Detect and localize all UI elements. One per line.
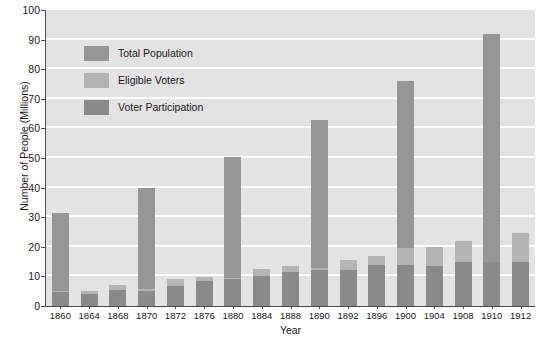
y-tick-label: 20 <box>0 242 40 252</box>
y-tick-mark <box>41 69 45 70</box>
legend-item[interactable]: Voter Participation <box>84 98 203 116</box>
voter-segment <box>455 262 472 306</box>
voter-segment <box>340 270 357 306</box>
y-tick-mark <box>41 99 45 100</box>
y-tick-mark <box>41 188 45 189</box>
legend-swatch-icon <box>84 46 109 61</box>
voter-segment <box>483 262 500 306</box>
x-tick-mark <box>89 306 90 309</box>
chart-legend: Total PopulationEligible VotersVoter Par… <box>84 44 203 125</box>
voter-segment <box>426 266 443 306</box>
bar-group[interactable] <box>455 10 472 306</box>
y-tick-label: 10 <box>0 271 40 281</box>
x-tick-mark <box>262 306 263 309</box>
bar-group[interactable] <box>224 10 241 306</box>
voter-segment <box>81 294 98 306</box>
y-tick-mark <box>41 158 45 159</box>
bar-group[interactable] <box>483 10 500 306</box>
voter-segment <box>52 292 69 306</box>
voter-segment <box>138 291 155 306</box>
legend-label: Total Population <box>118 47 193 59</box>
x-tick-mark <box>463 306 464 309</box>
legend-swatch-icon <box>84 73 109 88</box>
x-tick-mark <box>233 306 234 309</box>
bar-group[interactable] <box>340 10 357 306</box>
x-tick-mark <box>521 306 522 309</box>
y-tick-mark <box>41 128 45 129</box>
x-tick-mark <box>406 306 407 309</box>
bar-group[interactable] <box>311 10 328 306</box>
y-tick-mark <box>41 40 45 41</box>
voter-segment <box>109 290 126 306</box>
bar-group[interactable] <box>368 10 385 306</box>
x-tick-mark <box>434 306 435 309</box>
y-tick-label: 0 <box>0 301 40 311</box>
x-tick-mark <box>118 306 119 309</box>
x-tick-mark <box>175 306 176 309</box>
x-tick-mark <box>377 306 378 309</box>
y-axis-label: Number of People (Millions) <box>18 56 30 236</box>
voter-segment <box>196 281 213 306</box>
total-segment <box>138 188 155 306</box>
bar-group[interactable] <box>253 10 270 306</box>
x-tick-mark <box>348 306 349 309</box>
legend-label: Voter Participation <box>118 101 203 113</box>
voter-segment <box>311 270 328 306</box>
x-tick-mark <box>147 306 148 309</box>
x-axis-label: Year <box>46 324 535 336</box>
x-tick-mark <box>60 306 61 309</box>
voter-segment <box>397 265 414 306</box>
bar-group[interactable] <box>282 10 299 306</box>
y-tick-label: 100 <box>0 5 40 15</box>
x-tick-mark <box>492 306 493 309</box>
y-tick-mark <box>41 10 45 11</box>
voter-segment <box>224 279 241 306</box>
x-tick-label: 1912 <box>501 310 541 321</box>
bar-chart: 0102030405060708090100 18601864186818701… <box>0 0 549 341</box>
x-tick-mark <box>319 306 320 309</box>
legend-item[interactable]: Total Population <box>84 44 203 62</box>
bar-group[interactable] <box>426 10 443 306</box>
y-tick-mark <box>41 247 45 248</box>
voter-segment <box>253 276 270 306</box>
bar-group[interactable] <box>512 10 529 306</box>
voter-segment <box>368 265 385 306</box>
y-axis-line <box>45 10 46 307</box>
legend-item[interactable]: Eligible Voters <box>84 71 203 89</box>
y-tick-label: 90 <box>0 35 40 45</box>
y-tick-mark <box>41 276 45 277</box>
voter-segment <box>512 262 529 306</box>
legend-swatch-icon <box>84 100 109 115</box>
voter-segment <box>167 286 184 306</box>
bar-group[interactable] <box>397 10 414 306</box>
bar-group[interactable] <box>52 10 69 306</box>
voter-segment <box>282 272 299 306</box>
x-tick-mark <box>204 306 205 309</box>
y-tick-mark <box>41 217 45 218</box>
y-tick-mark <box>41 306 45 307</box>
legend-label: Eligible Voters <box>118 74 185 86</box>
x-tick-mark <box>291 306 292 309</box>
